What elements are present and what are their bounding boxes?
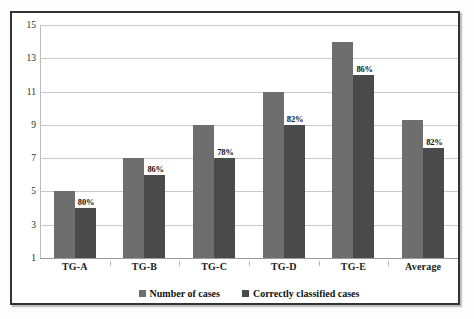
bar-tg-b-series-2 bbox=[144, 175, 165, 258]
bar-tg-d-series-1 bbox=[263, 92, 284, 258]
x-axis-label-tg-d: TG-D bbox=[249, 261, 319, 272]
chart-frame: 13579111315 80%86%78%82%86%82% TG-ATG-BT… bbox=[10, 11, 460, 305]
y-axis-tick-label: 7 bbox=[10, 153, 36, 163]
x-axis-separator bbox=[179, 261, 180, 266]
bar-group: 82% bbox=[249, 25, 319, 258]
x-axis-line bbox=[40, 258, 458, 259]
plot-area: 80%86%78%82%86%82% bbox=[40, 25, 458, 258]
chart-figure: 13579111315 80%86%78%82%86%82% TG-ATG-BT… bbox=[0, 0, 474, 319]
data-label-tg-d: 82% bbox=[287, 114, 303, 124]
bar-tg-c-series-2 bbox=[214, 158, 235, 258]
y-axis-tick-label: 1 bbox=[10, 253, 36, 263]
data-label-tg-c: 78% bbox=[217, 147, 233, 157]
x-axis-label-tg-a: TG-A bbox=[40, 261, 110, 272]
bar-tg-e-series-2 bbox=[353, 75, 374, 258]
x-axis-separator bbox=[110, 261, 111, 266]
data-label-tg-b: 86% bbox=[147, 164, 163, 174]
x-axis-separator bbox=[319, 261, 320, 266]
bar-average-series-1 bbox=[402, 120, 423, 258]
y-axis-tick-label: 11 bbox=[10, 87, 36, 97]
x-axis-separator bbox=[249, 261, 250, 266]
bar-group: 86% bbox=[319, 25, 389, 258]
legend-label-series-1: Number of cases bbox=[150, 288, 220, 299]
series-2-swatch bbox=[242, 290, 249, 297]
legend-label-series-2: Correctly classified cases bbox=[253, 288, 359, 299]
x-axis-tick-labels: TG-ATG-BTG-CTG-DTG-EAverage bbox=[40, 261, 458, 279]
data-label-tg-e: 86% bbox=[356, 64, 372, 74]
bar-group: 80% bbox=[40, 25, 110, 258]
bar-tg-e-series-1 bbox=[332, 42, 353, 258]
data-label-average: 82% bbox=[426, 137, 442, 147]
x-axis-separator bbox=[388, 261, 389, 266]
x-axis-label-tg-e: TG-E bbox=[319, 261, 389, 272]
bar-group: 78% bbox=[179, 25, 249, 258]
bar-tg-a-series-2 bbox=[75, 208, 96, 258]
bar-group: 86% bbox=[110, 25, 180, 258]
bar-average-series-2 bbox=[423, 148, 444, 258]
bar-tg-a-series-1 bbox=[54, 191, 75, 258]
y-axis-tick-label: 3 bbox=[10, 220, 36, 230]
x-axis-label-tg-b: TG-B bbox=[110, 261, 180, 272]
x-axis-label-average: Average bbox=[388, 261, 458, 272]
y-axis-tick-labels: 13579111315 bbox=[6, 25, 36, 258]
bar-tg-b-series-1 bbox=[123, 158, 144, 258]
x-axis-label-tg-c: TG-C bbox=[179, 261, 249, 272]
bar-tg-c-series-1 bbox=[193, 125, 214, 258]
data-label-tg-a: 80% bbox=[78, 197, 94, 207]
y-axis-tick-label: 15 bbox=[10, 20, 36, 30]
series-1-swatch bbox=[139, 290, 146, 297]
y-axis-tick-label: 13 bbox=[10, 53, 36, 63]
legend-item-number-of-cases: Number of cases bbox=[139, 288, 220, 299]
y-axis-tick-label: 9 bbox=[10, 120, 36, 130]
bar-group: 82% bbox=[388, 25, 458, 258]
y-axis-tick-label: 5 bbox=[10, 186, 36, 196]
chart-legend: Number of cases Correctly classified cas… bbox=[40, 285, 458, 301]
legend-item-correctly-classified-cases: Correctly classified cases bbox=[242, 288, 359, 299]
bar-tg-d-series-2 bbox=[284, 125, 305, 258]
